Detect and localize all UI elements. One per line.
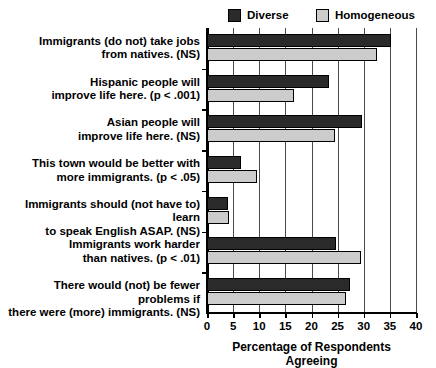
bar [207, 48, 377, 61]
bar [207, 211, 229, 224]
bar [207, 115, 362, 128]
category-label-line: there were (more) immigrants. (NS) [6, 306, 200, 320]
x-tick-label: 40 [401, 320, 431, 333]
x-tick-10 [259, 313, 261, 318]
category-tick [202, 232, 207, 234]
bar [207, 251, 361, 264]
category-label-line: There would (not) be fewer problems if [6, 279, 200, 306]
bar [207, 89, 294, 102]
bar [207, 75, 329, 88]
category-label-line: Immigrants (do not) take jobs [6, 35, 200, 49]
gridline-40 [416, 28, 417, 313]
legend-label-homogeneous: Homogeneous [335, 9, 415, 22]
legend-entry-diverse: Diverse [228, 6, 289, 24]
category-label: Immigrants work harderthan natives. (p <… [6, 238, 206, 265]
bar [207, 129, 335, 142]
category-axis-labels: Immigrants (do not) take jobsfrom native… [0, 28, 206, 313]
category-label: Hispanic people willimprove life here. (… [6, 76, 206, 103]
y-axis-line [206, 28, 208, 313]
legend-swatch-homogeneous [316, 9, 329, 22]
category-tick [202, 191, 207, 193]
category-tick [202, 109, 207, 111]
category-tick [202, 272, 207, 274]
category-label-line: Immigrants work harder [6, 238, 200, 252]
category-label-line: than natives. (p < .01) [6, 252, 200, 266]
category-label: Asian people willimprove life here. (NS) [6, 116, 206, 143]
bar [207, 156, 241, 169]
category-label-line: This town would be better with [6, 157, 200, 171]
gridline-10 [259, 28, 260, 313]
gridline-20 [312, 28, 313, 313]
category-label: Immigrants (do not) take jobsfrom native… [6, 35, 206, 62]
x-tick-25 [338, 313, 340, 318]
legend-swatch-diverse [228, 9, 241, 22]
category-label-line: improve life here. (NS) [6, 130, 200, 144]
legend-entry-homogeneous: Homogeneous [316, 6, 415, 24]
x-tick-20 [312, 313, 314, 318]
category-label-line: from natives. (NS) [6, 48, 200, 62]
category-label-line: improve life here. (p < .001) [6, 89, 200, 103]
plot-area [207, 28, 416, 313]
category-label-line: Hispanic people will [6, 76, 200, 90]
category-tick [202, 69, 207, 71]
x-tick-15 [285, 313, 287, 318]
category-label: This town would be better withmore immig… [6, 157, 206, 184]
category-label-line: Asian people will [6, 116, 200, 130]
gridline-25 [338, 28, 339, 313]
x-tick-35 [390, 313, 392, 318]
x-tick-0 [207, 313, 209, 318]
x-tick-5 [233, 313, 235, 318]
bar [207, 237, 336, 250]
bar [207, 197, 228, 210]
bar [207, 278, 350, 291]
legend-label-diverse: Diverse [247, 9, 289, 22]
x-tick-30 [364, 313, 366, 318]
x-axis-title: Percentage of Respondents Agreeing [207, 340, 416, 368]
chart-legend: Diverse Homogeneous [0, 6, 436, 28]
category-label-line: to speak English ASAP. (NS) [6, 225, 200, 239]
bar [207, 170, 257, 183]
category-tick [202, 150, 207, 152]
category-label-line: more immigrants. (p < .05) [6, 171, 200, 185]
gridline-30 [364, 28, 365, 313]
x-tick-40 [416, 313, 418, 318]
gridline-15 [285, 28, 286, 313]
category-label: Immigrants should (not have to) learnto … [6, 198, 206, 239]
gridline-35 [390, 28, 391, 313]
bar [207, 292, 346, 305]
bar [207, 34, 391, 47]
category-label: There would (not) be fewer problems ifth… [6, 279, 206, 320]
category-label-line: Immigrants should (not have to) learn [6, 198, 200, 225]
